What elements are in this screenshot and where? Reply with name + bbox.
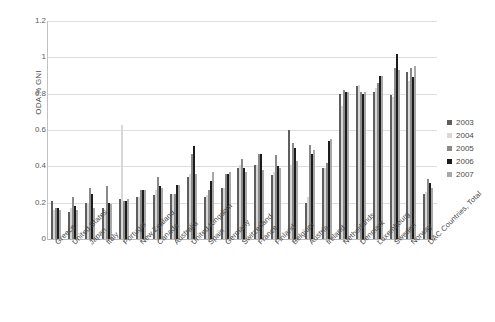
legend-label: 2003: [456, 119, 474, 127]
bar: [347, 92, 349, 239]
y-tick-label: 0.6: [20, 126, 46, 134]
bar-series-container: [48, 21, 437, 239]
bar-group: [302, 21, 319, 239]
y-tick-label: 1: [20, 53, 46, 61]
bar-group: [234, 21, 251, 239]
bar-group: [268, 21, 285, 239]
legend-item: 2007: [447, 168, 493, 181]
legend-swatch-icon: [447, 172, 452, 177]
y-tick-label: 1.2: [20, 17, 46, 25]
y-tick-label: 0: [20, 235, 46, 243]
x-axis-tick-labels: GreeceUnited StatesJapanItalyPortugalNew…: [48, 240, 437, 320]
oda-gni-bar-chart: ODA % GNI 00.20.40.60.811.2 GreeceUnited…: [0, 0, 495, 322]
bar-group: [251, 21, 268, 239]
legend-label: 2007: [456, 171, 474, 179]
legend-item: 2006: [447, 155, 493, 168]
bar-group: [386, 21, 403, 239]
bar: [330, 139, 332, 239]
bar-group: [166, 21, 183, 239]
bar-group: [48, 21, 65, 239]
bar-group: [149, 21, 166, 239]
bar-group: [183, 21, 200, 239]
bar-group: [99, 21, 116, 239]
bar-group: [116, 21, 133, 239]
y-tick-label: 0.4: [20, 162, 46, 170]
legend-item: 2005: [447, 142, 493, 155]
y-axis-tick-labels: 00.20.40.60.811.2: [14, 0, 46, 322]
bar-group: [352, 21, 369, 239]
bar: [279, 168, 281, 239]
y-tick-label: 0.8: [20, 90, 46, 98]
bar: [381, 76, 383, 240]
bar-group: [65, 21, 82, 239]
bar-group: [403, 21, 420, 239]
bar-group: [335, 21, 352, 239]
legend-label: 2004: [456, 132, 474, 140]
bar-group: [369, 21, 386, 239]
legend-swatch-icon: [447, 146, 452, 151]
legend-label: 2006: [456, 158, 474, 166]
plot-area: [48, 21, 437, 239]
bar-group: [133, 21, 150, 239]
legend-swatch-icon: [447, 120, 452, 125]
bar-group: [82, 21, 99, 239]
bar-group: [420, 21, 437, 239]
bar-group: [200, 21, 217, 239]
y-tick-label: 0.2: [20, 199, 46, 207]
legend-item: 2003: [447, 116, 493, 129]
bar-group: [285, 21, 302, 239]
bar: [398, 70, 400, 239]
bar-group: [319, 21, 336, 239]
bar: [414, 66, 416, 239]
legend-item: 2004: [447, 129, 493, 142]
legend: 20032004200520062007: [447, 116, 493, 181]
legend-swatch-icon: [447, 159, 452, 164]
legend-label: 2005: [456, 145, 474, 153]
legend-swatch-icon: [447, 133, 452, 138]
